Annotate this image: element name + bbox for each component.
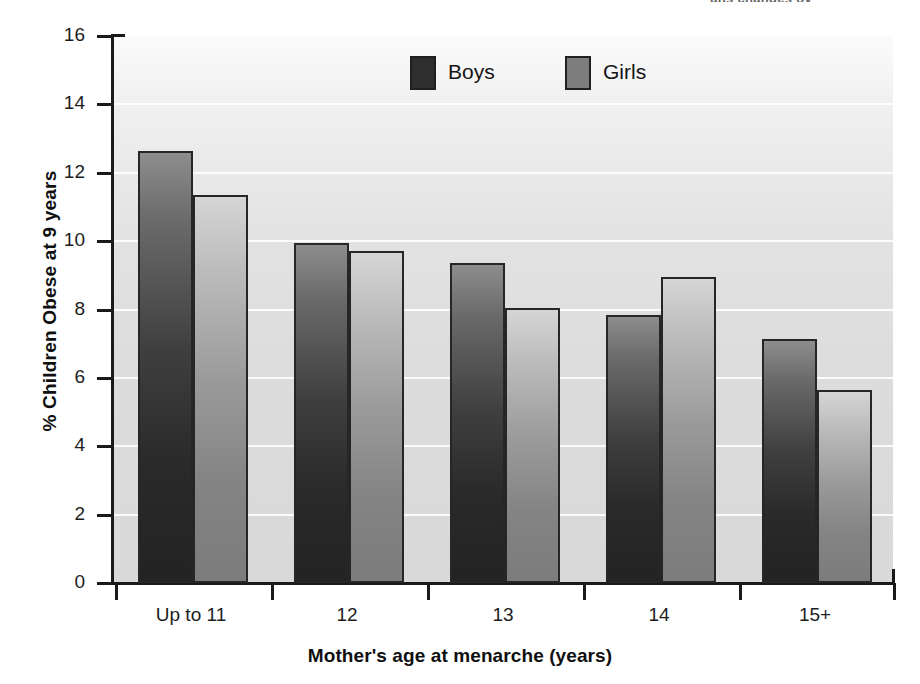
y-axis-tick-label: 8	[25, 298, 85, 320]
bar-boys-0	[138, 151, 193, 583]
y-axis-tick	[97, 377, 113, 380]
y-axis-tick	[97, 445, 113, 448]
y-axis-tick	[97, 35, 113, 38]
x-axis-tick-label: Up to 11	[106, 604, 276, 626]
gridline	[113, 103, 893, 105]
y-axis-tick	[97, 103, 113, 106]
y-axis-tick-label: 0	[25, 571, 85, 593]
legend-label-girls: Girls	[603, 60, 646, 84]
bar-girls-2	[505, 308, 560, 583]
y-axis-top-cap	[111, 34, 125, 37]
x-axis-tick	[427, 583, 430, 600]
bar-girls-1	[349, 251, 404, 583]
bar-boys-1	[294, 243, 349, 583]
y-axis-tick-label: 14	[25, 92, 85, 114]
y-axis-tick	[97, 582, 113, 585]
x-axis-tick	[583, 583, 586, 600]
y-axis-tick-label: 4	[25, 434, 85, 456]
x-axis-title: Mother's age at menarche (years)	[0, 645, 920, 667]
y-axis-tick-label: 6	[25, 366, 85, 388]
x-axis-tick	[893, 583, 896, 600]
x-axis-tick	[115, 583, 118, 600]
legend-swatch-boys	[410, 56, 436, 90]
y-axis-tick-label: 2	[25, 503, 85, 525]
bar-girls-3	[661, 277, 716, 583]
x-axis-tick	[739, 583, 742, 600]
y-axis-tick-label: 12	[25, 161, 85, 183]
y-axis-tick	[97, 240, 113, 243]
x-axis-tick	[271, 583, 274, 600]
clipped-title-fragment: ans changes ov	[710, 0, 812, 2]
y-axis-tick	[97, 514, 113, 517]
x-axis-tick-label: 12	[262, 604, 432, 626]
y-axis-tick	[97, 172, 113, 175]
bar-boys-3	[606, 315, 661, 583]
bar-girls-0	[193, 195, 248, 583]
x-axis-tick-label: 14	[574, 604, 744, 626]
legend-label-boys: Boys	[448, 60, 495, 84]
bar-girls-4	[817, 390, 872, 583]
gridline	[113, 172, 893, 174]
chart-figure: ans changes ov % Children Obese at 9 yea…	[0, 0, 920, 684]
bar-boys-4	[762, 339, 817, 583]
x-axis-tick-label: 13	[418, 604, 588, 626]
y-axis-tick-label: 16	[25, 24, 85, 46]
y-axis-tick-label: 10	[25, 229, 85, 251]
legend-swatch-girls	[565, 56, 591, 90]
y-axis-tick	[97, 309, 113, 312]
bar-boys-2	[450, 263, 505, 583]
x-axis-tick-label: 15+	[730, 604, 900, 626]
